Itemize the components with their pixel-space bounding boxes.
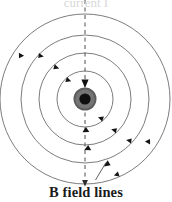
magnetic-field-diagram <box>0 0 172 202</box>
figure-root: current I B field lines <box>0 0 172 202</box>
wire-cross-section <box>74 88 97 111</box>
wire-core-dot <box>79 93 90 104</box>
